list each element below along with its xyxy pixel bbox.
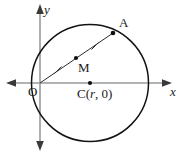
y-axis-label: y xyxy=(44,3,50,16)
y-axis-up-arrow-icon xyxy=(36,4,44,14)
point-A-label: A xyxy=(119,16,128,29)
circle-geometry-figure: y x O A M C(r, 0) xyxy=(0,0,186,155)
origin-label: O xyxy=(28,85,37,98)
y-axis-down-arrow-icon xyxy=(36,141,44,151)
points-group xyxy=(74,31,115,85)
figure-canvas xyxy=(0,0,186,155)
point-A-dot xyxy=(111,31,116,36)
x-axis-left-arrow-icon xyxy=(6,79,16,87)
x-axis-label: x xyxy=(170,85,176,98)
axes-group xyxy=(6,4,172,151)
chord-tick-mark-2 xyxy=(92,43,99,50)
center-label-suffix: , 0) xyxy=(95,86,112,101)
center-label-prefix: C( xyxy=(77,86,90,101)
chord-tick-mark-1 xyxy=(55,67,62,74)
center-label: C(r, 0) xyxy=(77,87,112,100)
point-M-label: M xyxy=(78,61,90,74)
point-C-dot xyxy=(88,81,92,85)
